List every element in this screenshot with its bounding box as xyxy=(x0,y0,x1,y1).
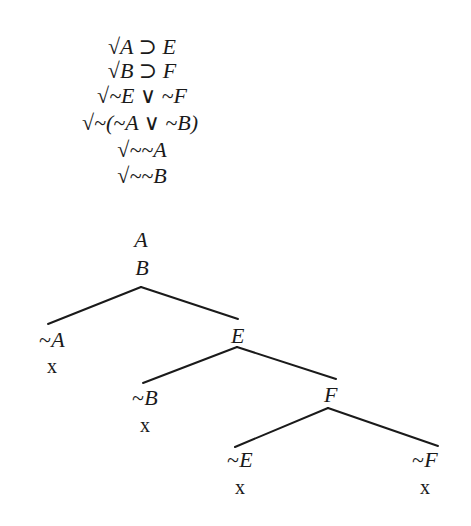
node-not-b: ~B xyxy=(132,386,158,410)
node-not-a: ~A xyxy=(39,328,65,352)
closed-mark-not-e: x xyxy=(235,476,245,499)
branch-b-to-notA xyxy=(48,287,141,324)
trunk-line-6: √~~B xyxy=(117,164,166,188)
trunk-line-1: √A ⊃ E xyxy=(108,35,176,59)
node-e: E xyxy=(231,324,245,348)
closed-mark-not-a: x xyxy=(47,355,57,378)
trunk-line-8: B xyxy=(135,256,148,280)
trunk-line-2: √B ⊃ F xyxy=(108,59,176,83)
trunk-line-7: A xyxy=(134,228,147,252)
node-f: F xyxy=(324,383,338,407)
branch-e-to-f xyxy=(237,347,336,379)
branch-b-to-e xyxy=(141,287,238,319)
closed-mark-not-f: x xyxy=(420,476,430,499)
node-not-e: ~E xyxy=(227,448,253,472)
trunk-line-4: √~(~A ∨ ~B) xyxy=(82,111,198,135)
branch-f-to-notE xyxy=(235,408,328,447)
branch-e-to-notB xyxy=(143,347,237,383)
node-not-f: ~F xyxy=(412,448,438,472)
branch-f-to-notF xyxy=(328,408,438,446)
trunk-line-3: √~E ∨ ~F xyxy=(97,84,187,108)
trunk-line-5: √~~A xyxy=(117,138,166,162)
closed-mark-not-b: x xyxy=(140,414,150,437)
